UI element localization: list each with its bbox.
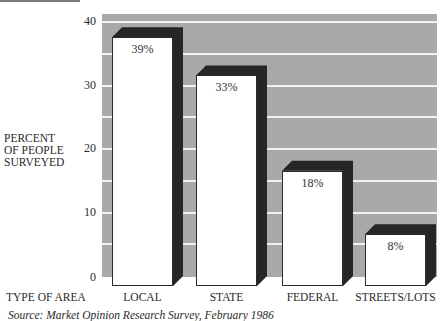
bar-front-face: 39% [112, 37, 173, 286]
bar-front-face: 33% [196, 75, 257, 286]
bar-value-label: 33% [197, 80, 256, 95]
bar-value-label: 39% [113, 42, 172, 57]
source-note: Source: Market Opinion Research Survey, … [8, 309, 274, 321]
x-category-label: STREETS/LOTS [345, 291, 441, 303]
bar-front-face: 8% [365, 234, 426, 286]
bar-value-label: 8% [366, 239, 425, 254]
x-axis-title: TYPE OF AREA [6, 291, 86, 303]
bar-front-face: 18% [282, 171, 343, 286]
bar-value-label: 18% [283, 176, 342, 191]
